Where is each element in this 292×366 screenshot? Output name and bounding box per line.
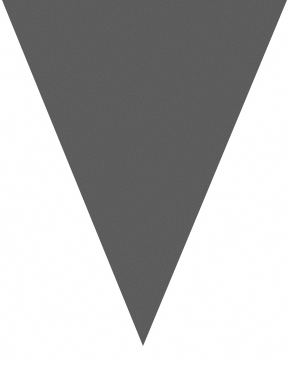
canvas-grain-overlay <box>0 0 292 366</box>
image-canvas <box>0 0 292 366</box>
triangle-figure <box>0 0 292 366</box>
